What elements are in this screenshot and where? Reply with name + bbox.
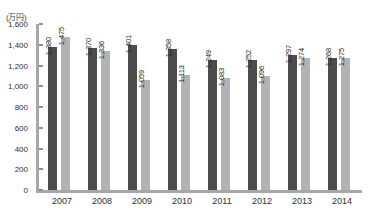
bar: 1,249 (208, 60, 217, 190)
bar-group: 1,3801,475 (42, 24, 82, 190)
bar-value-label: 1,249 (204, 50, 213, 68)
bar-value-label: 1,401 (124, 35, 133, 53)
bar-value-label: 1,297 (284, 45, 293, 63)
bar: 1,275 (341, 58, 350, 190)
bar: 1,475 (61, 37, 70, 190)
bar: 1,370 (88, 48, 97, 190)
bar: 1,113 (181, 75, 190, 190)
bar: 1,358 (168, 49, 177, 190)
bar-value-label: 1,059 (137, 70, 146, 88)
y-axis-tick-label: 600 (0, 124, 28, 133)
bar-value-label: 1,096 (257, 66, 266, 84)
bar-value-label: 1,475 (57, 27, 66, 45)
bar-value-label: 1,380 (44, 37, 53, 55)
bar-chart: (万円) 1,3801,4751,3701,3361,4011,0591,358… (0, 0, 368, 220)
bar-group: 1,2521,096 (242, 24, 282, 190)
y-axis-tick-label: 1,000 (0, 82, 28, 91)
bar: 1,380 (48, 47, 57, 190)
bar-group: 1,3701,336 (82, 24, 122, 190)
bar-value-label: 1,358 (164, 39, 173, 57)
y-axis-tick-label: 200 (0, 165, 28, 174)
y-axis-tick-label: 800 (0, 103, 28, 112)
plot-area: 1,3801,4751,3701,3361,4011,0591,3581,113… (36, 24, 362, 190)
bar-value-label: 1,274 (297, 48, 306, 66)
bar: 1,401 (128, 45, 137, 190)
bar-value-label: 1,113 (177, 65, 186, 83)
y-axis-tick-label: 1,600 (0, 20, 28, 29)
bar-value-label: 1,275 (337, 48, 346, 66)
bar: 1,274 (301, 58, 310, 190)
bar-group: 1,3581,113 (162, 24, 202, 190)
bar: 1,252 (248, 60, 257, 190)
y-axis-tick-label: 400 (0, 145, 28, 154)
bar-value-label: 1,268 (324, 48, 333, 66)
bar: 1,059 (141, 80, 150, 190)
bar-value-label: 1,370 (84, 38, 93, 56)
bar: 1,083 (221, 78, 230, 190)
bar: 1,268 (328, 58, 337, 190)
x-axis-tick-label: 2014 (312, 196, 368, 206)
x-axis-line (36, 190, 362, 193)
bar: 1,297 (288, 55, 297, 190)
bar-group: 1,4011,059 (122, 24, 162, 190)
bar-value-label: 1,336 (97, 41, 106, 59)
bar-value-label: 1,252 (244, 50, 253, 68)
y-axis-tick-label: 0 (0, 186, 28, 195)
bar-value-label: 1,083 (217, 68, 226, 86)
bar: 1,336 (101, 51, 110, 190)
y-axis-tick-label: 1,400 (0, 41, 28, 50)
bar-group: 1,2681,275 (322, 24, 362, 190)
bar: 1,096 (261, 76, 270, 190)
bar-group: 1,2971,274 (282, 24, 322, 190)
bar-group: 1,2491,083 (202, 24, 242, 190)
y-axis-tick-label: 1,200 (0, 62, 28, 71)
